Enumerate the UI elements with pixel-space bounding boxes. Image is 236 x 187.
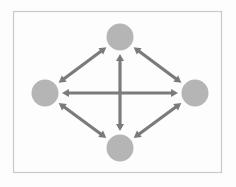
node-top[interactable]: [107, 24, 134, 51]
diagram-canvas: [0, 0, 236, 187]
node-right[interactable]: [182, 80, 209, 107]
node-bottom[interactable]: [107, 135, 134, 162]
network-diagram: [0, 0, 236, 187]
node-left[interactable]: [32, 80, 59, 107]
